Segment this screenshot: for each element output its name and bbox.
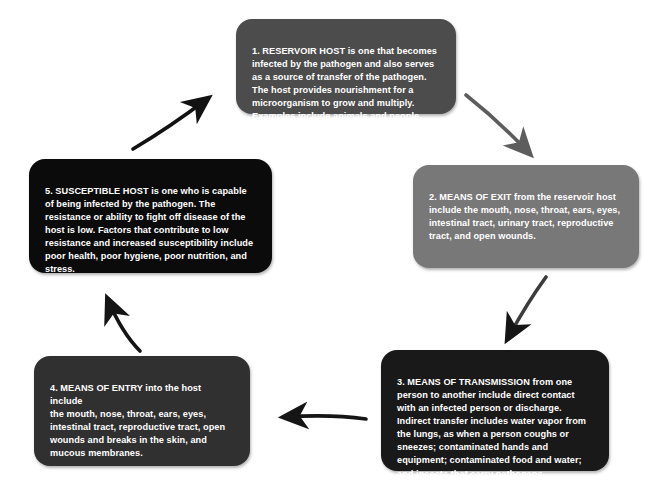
arrow-reservoir-to-exit [466,95,529,153]
node-means-of-transmission-text: 3. MEANS OF TRANSMISSION from one person… [397,376,595,481]
node-susceptible-host: 5. SUSCEPTIBLE HOST is one who is capabl… [29,159,272,273]
node-means-of-transmission: 3. MEANS OF TRANSMISSION from one person… [381,350,609,471]
node-means-of-exit: 2. MEANS OF EXIT from the reservoir host… [413,165,639,268]
infection-cycle-diagram: 1. RESERVOIR HOST is one that becomes in… [0,0,655,489]
arrow-susceptible-to-reservoir [133,99,207,149]
arrow-entry-to-susceptible [108,300,140,351]
node-means-of-entry-text: 4. MEANS OF ENTRY into the host include … [50,382,236,460]
node-reservoir-host-text: 1. RESERVOIR HOST is one that becomes in… [252,45,442,123]
arrow-exit-to-transmission [508,277,546,338]
node-means-of-entry: 4. MEANS OF ENTRY into the host include … [34,356,250,466]
node-means-of-exit-text: 2. MEANS OF EXIT from the reservoir host… [429,191,625,243]
node-reservoir-host: 1. RESERVOIR HOST is one that becomes in… [236,19,456,114]
node-susceptible-host-text: 5. SUSCEPTIBLE HOST is one who is capabl… [45,185,258,276]
arrow-transmission-to-entry [285,416,366,419]
